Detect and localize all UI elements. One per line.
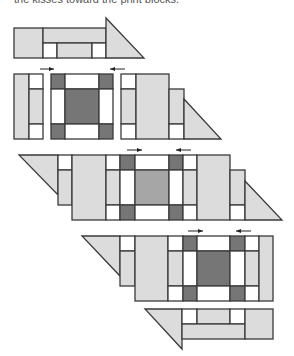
white-patch: [29, 74, 43, 89]
white-patch: [168, 236, 183, 251]
light-patch: [14, 74, 29, 139]
triangle-patch: [184, 99, 221, 139]
dark-patch: [99, 74, 113, 89]
white-patch: [106, 205, 120, 220]
light-patch: [169, 89, 184, 124]
light-patch: [29, 89, 43, 124]
light-patch: [182, 324, 245, 339]
white-patch: [92, 43, 106, 58]
dark-patch: [169, 155, 183, 170]
arrow-left-icon: [176, 148, 191, 152]
white-patch: [65, 74, 99, 89]
arrow-right-icon: [127, 148, 142, 152]
dark-patch: [183, 286, 197, 301]
arrow-right-icon: [188, 229, 203, 233]
dark-patch: [120, 205, 135, 220]
white-patch: [121, 74, 136, 89]
light-patch: [197, 309, 230, 324]
light-patch: [43, 28, 106, 43]
arrow-right-icon: [40, 67, 54, 71]
light-patch: [197, 155, 230, 220]
triangle-patch: [82, 236, 120, 276]
light-patch: [106, 170, 120, 205]
light-patch: [121, 89, 136, 124]
white-patch: [120, 236, 135, 251]
white-patch: [106, 155, 120, 170]
light-patch: [57, 43, 92, 58]
white-patch: [99, 89, 113, 124]
dark-patch: [51, 124, 65, 139]
white-patch: [51, 89, 65, 124]
white-patch: [135, 155, 169, 170]
row-3: [19, 148, 282, 220]
triangle-patch: [145, 309, 182, 349]
white-patch: [183, 205, 197, 220]
white-patch: [230, 251, 245, 286]
light-patch: [183, 170, 197, 205]
white-patch: [183, 251, 197, 286]
white-patch: [120, 170, 135, 205]
arrow-left-icon: [110, 67, 125, 71]
white-patch: [197, 286, 230, 301]
dark-patch: [65, 89, 99, 124]
white-patch: [121, 124, 136, 139]
triangle-patch: [19, 155, 58, 195]
white-patch: [230, 309, 245, 324]
dark-patch: [120, 155, 135, 170]
triangle-patch: [106, 18, 144, 58]
dark-patch: [230, 286, 245, 301]
light-patch: [245, 251, 259, 286]
row-4: [82, 229, 273, 301]
white-patch: [169, 124, 184, 139]
white-patch: [183, 155, 197, 170]
dark-patch: [183, 236, 197, 251]
light-patch: [58, 170, 72, 205]
white-patch: [65, 124, 99, 139]
dark-patch: [169, 205, 183, 220]
white-patch: [29, 124, 43, 139]
white-patch: [230, 205, 245, 220]
row-5: [145, 309, 273, 349]
white-patch: [245, 236, 259, 251]
white-patch: [168, 286, 183, 301]
white-patch: [135, 205, 169, 220]
medium-patch: [135, 170, 169, 205]
light-patch: [245, 309, 273, 339]
row-2: [14, 67, 221, 139]
row-1: [14, 18, 144, 58]
arrow-left-icon: [236, 229, 251, 233]
light-patch: [72, 155, 106, 220]
triangle-patch: [245, 181, 282, 220]
light-patch: [136, 74, 169, 139]
dark-patch: [99, 124, 113, 139]
dark-patch: [230, 236, 245, 251]
white-patch: [182, 309, 197, 324]
white-patch: [197, 236, 230, 251]
white-patch: [245, 286, 259, 301]
white-patch: [58, 155, 72, 170]
white-patch: [43, 43, 57, 58]
light-patch: [14, 28, 43, 58]
light-patch: [168, 251, 183, 286]
light-patch: [230, 170, 245, 205]
quilt-assembly-diagram: [0, 0, 294, 356]
dark-patch: [197, 251, 230, 286]
dark-patch: [51, 74, 65, 89]
white-patch: [169, 170, 183, 205]
light-patch: [135, 236, 168, 301]
light-patch: [259, 236, 273, 301]
light-patch: [120, 251, 135, 286]
